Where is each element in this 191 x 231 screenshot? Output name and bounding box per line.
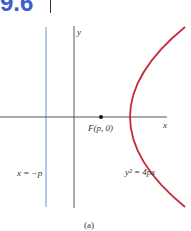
focus-label: F(p, 0) xyxy=(87,123,113,133)
x-axis-label: x xyxy=(162,120,167,130)
y-axis-label: y xyxy=(76,27,81,37)
figure-caption: (a) xyxy=(84,220,94,230)
focus-point xyxy=(99,115,103,119)
parabola-figure: y x F(p, 0) x = −p y² = 4px (a) xyxy=(0,0,191,231)
equation-label: y² = 4px xyxy=(124,167,155,177)
directrix-label: x = −p xyxy=(16,168,43,178)
